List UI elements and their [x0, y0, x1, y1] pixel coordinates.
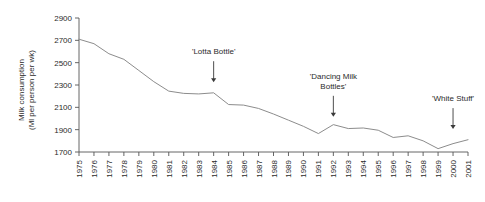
x-tick-label: 1993 [344, 159, 353, 177]
annotation-label: Bottles' [320, 82, 346, 91]
y-tick-label: 2100 [54, 103, 72, 112]
x-tick-label: 1980 [150, 159, 159, 177]
x-tick-label: 1999 [434, 159, 443, 177]
annotation-1: 'Lotta Bottle' [192, 47, 236, 82]
annotation-label: 'White Stuff' [432, 94, 475, 103]
x-tick-label: 1986 [240, 159, 249, 177]
y-axis-title-line2: (Ml per person per wk) [27, 50, 36, 130]
x-tick-label: 1995 [374, 159, 383, 177]
x-tick-label: 2001 [464, 159, 473, 177]
x-tick-label: 1988 [270, 159, 279, 177]
x-tick-label: 2000 [449, 159, 458, 177]
x-tick-label: 1989 [284, 159, 293, 177]
y-axis: 1700190021002300250027002900 [54, 14, 79, 157]
x-tick-label: 1991 [314, 159, 323, 177]
x-tick-label: 1975 [75, 159, 84, 177]
x-tick-label: 1978 [120, 159, 129, 177]
x-tick-label: 1976 [90, 159, 99, 177]
x-tick-label: 1998 [419, 159, 428, 177]
x-tick-label: 1990 [299, 159, 308, 177]
x-tick-label: 1977 [105, 159, 114, 177]
x-tick-label: 1984 [210, 159, 219, 177]
annotation-label: 'Lotta Bottle' [192, 47, 236, 56]
y-tick-label: 2500 [54, 59, 72, 68]
annotation-arrow-head [450, 125, 455, 129]
x-tick-label: 1992 [329, 159, 338, 177]
y-tick-label: 1700 [54, 148, 72, 157]
x-tick-label: 1996 [389, 159, 398, 177]
y-tick-label: 2900 [54, 14, 72, 23]
y-axis-title: Milk consumption (Ml per person per wk) [17, 50, 36, 130]
data-series [79, 39, 468, 148]
x-tick-label: 1983 [195, 159, 204, 177]
annotation-2: 'Dancing MilkBottles' [310, 72, 358, 117]
x-tick-label: 1987 [255, 159, 264, 177]
x-tick-label: 1981 [165, 159, 174, 177]
x-tick-label: 1997 [404, 159, 413, 177]
x-tick-label: 1994 [359, 159, 368, 177]
annotation-arrow-head [331, 113, 336, 117]
milk-consumption-chart: Milk consumption (Ml per person per wk) … [0, 0, 485, 202]
x-axis: 1975197619771978197919801981198219831984… [75, 152, 473, 178]
x-tick-label: 1982 [180, 159, 189, 177]
x-tick-label: 1979 [135, 159, 144, 177]
x-tick-label: 1985 [225, 159, 234, 177]
y-tick-label: 2300 [54, 81, 72, 90]
chart-canvas: Milk consumption (Ml per person per wk) … [0, 0, 485, 202]
annotation-3: 'White Stuff' [432, 94, 475, 129]
y-tick-label: 2700 [54, 36, 72, 45]
annotation-arrow-head [211, 78, 216, 82]
y-axis-title-line1: Milk consumption [17, 59, 26, 121]
annotations: 'Lotta Bottle''Dancing MilkBottles''Whit… [192, 47, 475, 129]
series-line-milk-consumption [79, 39, 468, 148]
y-tick-label: 1900 [54, 126, 72, 135]
annotation-label: 'Dancing Milk [310, 72, 358, 81]
